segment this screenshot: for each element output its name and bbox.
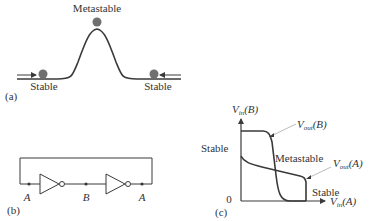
node-a-left-label: A xyxy=(23,191,31,203)
panel-c-tag: (c) xyxy=(215,206,228,219)
right-stable-ball xyxy=(150,70,159,79)
inverter-2-bubble xyxy=(126,182,131,187)
node-b-label: B xyxy=(83,191,90,203)
panel-b-tag: (b) xyxy=(7,204,20,217)
leader-vout-a xyxy=(308,167,331,178)
node-a-right xyxy=(140,182,143,185)
left-stable-ball xyxy=(39,70,48,79)
panel-c: 0 Stable Metastable Stable (c) Vin(B) Vi… xyxy=(201,103,363,219)
vout-a-label: Vout(A) xyxy=(333,157,363,171)
node-a-right-label: A xyxy=(138,191,146,203)
curve-vout-b xyxy=(241,131,306,201)
left-stable-label: Stable xyxy=(30,80,58,92)
metastable-label-c: Metastable xyxy=(275,152,323,164)
bistable-diagram: Metastable Stable Stable (a) A B A (b) 0… xyxy=(0,0,369,221)
metastable-ball xyxy=(93,18,102,27)
node-a-left xyxy=(27,182,30,185)
panel-a: Metastable Stable Stable (a) xyxy=(5,2,181,103)
x-axis-label: Vin(A) xyxy=(330,195,357,209)
node-b xyxy=(84,182,87,185)
arrowhead-vout-a xyxy=(306,175,311,179)
stable-top-label: Stable xyxy=(201,142,229,154)
origin-label: 0 xyxy=(226,193,232,205)
inverter-1-icon xyxy=(40,174,59,194)
inverter-1-bubble xyxy=(60,182,65,187)
y-axis-label: Vin(B) xyxy=(232,103,259,117)
panel-a-tag: (a) xyxy=(5,90,18,103)
metastable-label: Metastable xyxy=(73,2,121,14)
vout-b-label: Vout(B) xyxy=(297,118,327,132)
leader-vout-b xyxy=(271,124,296,136)
right-stable-label: Stable xyxy=(144,80,172,92)
inverter-2-icon xyxy=(106,174,125,194)
panel-b xyxy=(20,158,152,194)
